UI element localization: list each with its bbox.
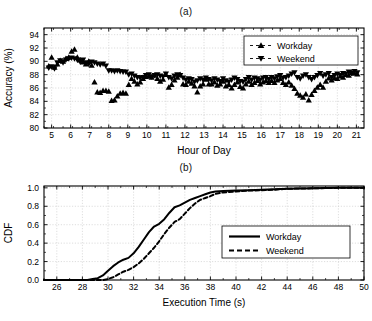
svg-text:88: 88 (30, 70, 40, 80)
svg-text:0.0: 0.0 (27, 275, 39, 285)
svg-text:8: 8 (106, 130, 111, 140)
y-axis-title: Accuracy (%) (3, 48, 14, 107)
svg-text:5: 5 (49, 130, 54, 140)
svg-text:15: 15 (237, 130, 247, 140)
figure-container: (a) 567891011121314151617181920218082848… (0, 0, 372, 321)
svg-text:26: 26 (52, 282, 62, 292)
accuracy-scatter-plot: 5678910111213141516171819202180828486889… (0, 0, 372, 160)
svg-text:80: 80 (30, 123, 40, 133)
svg-text:0.8: 0.8 (27, 201, 39, 211)
svg-text:94: 94 (30, 30, 40, 40)
svg-text:13: 13 (199, 130, 209, 140)
svg-text:16: 16 (256, 130, 266, 140)
svg-text:50: 50 (359, 282, 369, 292)
svg-text:14: 14 (218, 130, 228, 140)
svg-text:6: 6 (68, 130, 73, 140)
y-axis-title: CDF (3, 223, 14, 244)
svg-text:82: 82 (30, 110, 40, 120)
svg-text:40: 40 (231, 282, 241, 292)
svg-text:32: 32 (129, 282, 139, 292)
panel-a-accuracy-chart: (a) 567891011121314151617181920218082848… (0, 0, 372, 160)
svg-text:1.0: 1.0 (27, 183, 39, 193)
svg-text:18: 18 (295, 130, 305, 140)
legend-label-weekend: Weekend (277, 54, 315, 64)
svg-text:48: 48 (334, 282, 344, 292)
svg-text:20: 20 (333, 130, 343, 140)
svg-text:7: 7 (87, 130, 92, 140)
svg-text:44: 44 (282, 282, 292, 292)
x-axis-title: Hour of Day (177, 145, 230, 156)
svg-text:21: 21 (352, 130, 362, 140)
svg-text:36: 36 (180, 282, 190, 292)
svg-text:0.2: 0.2 (27, 257, 39, 267)
panel-b-cdf-chart: (b) 262830323436384042444648500.00.20.40… (0, 160, 372, 321)
svg-text:30: 30 (103, 282, 113, 292)
svg-text:34: 34 (154, 282, 164, 292)
svg-text:28: 28 (78, 282, 88, 292)
svg-text:92: 92 (30, 43, 40, 53)
legend-label-workday: Workday (266, 232, 302, 242)
svg-text:11: 11 (161, 130, 170, 140)
svg-text:19: 19 (314, 130, 324, 140)
x-axis-title: Execution Time (s) (163, 297, 246, 308)
svg-text:38: 38 (206, 282, 216, 292)
svg-text:46: 46 (308, 282, 318, 292)
svg-text:42: 42 (257, 282, 267, 292)
svg-text:10: 10 (142, 130, 152, 140)
svg-text:84: 84 (30, 96, 40, 106)
svg-text:86: 86 (30, 83, 40, 93)
svg-text:17: 17 (275, 130, 285, 140)
svg-text:12: 12 (180, 130, 190, 140)
legend: WorkdayWeekend (244, 36, 358, 65)
svg-text:0.4: 0.4 (27, 238, 39, 248)
svg-text:9: 9 (125, 130, 130, 140)
svg-text:0.6: 0.6 (27, 220, 39, 230)
legend-label-weekend: Weekend (266, 246, 304, 256)
cdf-line-plot: 262830323436384042444648500.00.20.40.60.… (0, 160, 372, 321)
legend: WorkdayWeekend (222, 226, 350, 258)
svg-text:90: 90 (30, 56, 40, 66)
legend-label-workday: Workday (277, 41, 313, 51)
